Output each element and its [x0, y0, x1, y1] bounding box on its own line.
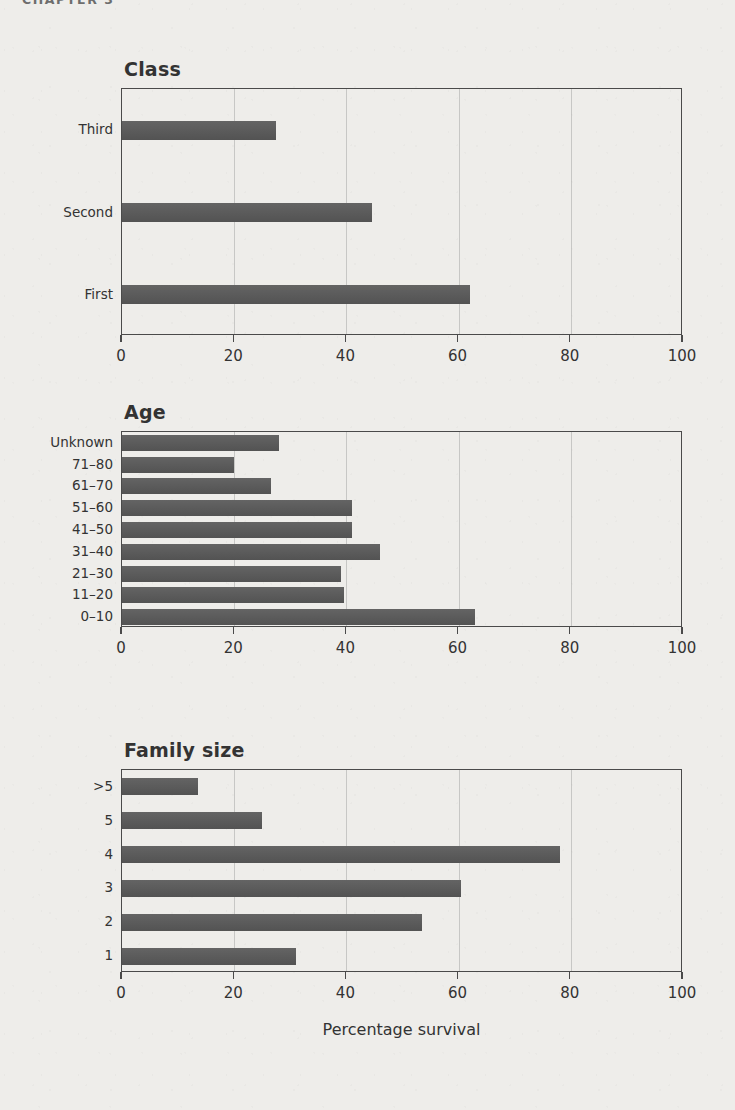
x-axis-tick-label: 0 — [116, 347, 126, 365]
x-axis-tick — [345, 335, 346, 342]
bar — [122, 457, 234, 473]
y-axis-label: Second — [29, 204, 113, 220]
x-axis-tick — [569, 627, 570, 634]
bar — [122, 880, 461, 897]
gridline — [234, 770, 235, 971]
chart-title: Family size — [124, 739, 244, 761]
x-axis-tick — [120, 335, 121, 342]
bar — [122, 522, 352, 538]
x-axis-tick-label: 80 — [560, 984, 579, 1002]
y-axis-label: >5 — [29, 778, 113, 794]
y-axis-label: 11–20 — [29, 586, 113, 602]
x-axis-tick — [233, 627, 234, 634]
bar — [122, 812, 262, 829]
bar — [122, 948, 296, 965]
x-axis-tick-label: 0 — [116, 984, 126, 1002]
bar — [122, 285, 470, 304]
x-axis-tick-label: 80 — [560, 347, 579, 365]
y-axis-label: 4 — [29, 846, 113, 862]
y-axis-label: 5 — [29, 812, 113, 828]
x-axis-tick — [681, 972, 682, 979]
y-axis-label: Third — [29, 121, 113, 137]
x-axis-tick-label: 40 — [336, 347, 355, 365]
x-axis-tick-label: 0 — [116, 639, 126, 657]
x-axis-tick — [569, 972, 570, 979]
gridline — [571, 770, 572, 971]
bar — [122, 478, 271, 494]
bar — [122, 203, 372, 222]
x-axis-tick — [120, 627, 121, 634]
x-axis-tick — [457, 972, 458, 979]
chart-title: Age — [124, 401, 166, 423]
x-axis-tick-label: 60 — [448, 984, 467, 1002]
x-axis-tick — [681, 335, 682, 342]
y-axis-label: 61–70 — [29, 477, 113, 493]
bar — [122, 609, 475, 625]
bar — [122, 846, 560, 863]
bar — [122, 914, 422, 931]
x-axis-tick — [120, 972, 121, 979]
x-axis-tick-label: 100 — [668, 639, 697, 657]
chart-title: Class — [124, 58, 181, 80]
y-axis-label: 3 — [29, 879, 113, 895]
bar — [122, 566, 341, 582]
gridline — [346, 770, 347, 971]
plot-area — [121, 431, 682, 627]
bar — [122, 500, 352, 516]
x-axis-tick — [233, 972, 234, 979]
y-axis-label: 31–40 — [29, 543, 113, 559]
gridline — [459, 432, 460, 626]
x-axis-tick — [681, 627, 682, 634]
bar — [122, 587, 344, 603]
x-axis-tick-label: 20 — [224, 984, 243, 1002]
y-axis-label: 51–60 — [29, 499, 113, 515]
plot-area — [121, 769, 682, 972]
y-axis-label: First — [29, 286, 113, 302]
y-axis-label: Unknown — [29, 434, 113, 450]
gridline — [571, 432, 572, 626]
x-axis-tick — [457, 335, 458, 342]
x-axis-tick-label: 40 — [336, 639, 355, 657]
x-axis-tick-label: 80 — [560, 639, 579, 657]
x-axis-tick — [457, 627, 458, 634]
x-axis-tick-label: 20 — [224, 347, 243, 365]
gridline — [571, 89, 572, 334]
x-axis-tick-label: 60 — [448, 347, 467, 365]
x-axis-tick — [345, 627, 346, 634]
x-axis-tick — [569, 335, 570, 342]
y-axis-label: 41–50 — [29, 521, 113, 537]
y-axis-label: 0–10 — [29, 608, 113, 624]
y-axis-label: 71–80 — [29, 456, 113, 472]
x-axis-title: Percentage survival — [323, 1020, 481, 1039]
x-axis-tick — [345, 972, 346, 979]
plot-area — [121, 88, 682, 335]
x-axis-tick — [233, 335, 234, 342]
x-axis-tick-label: 40 — [336, 984, 355, 1002]
running-head: CHAPTER 3 — [22, 0, 115, 7]
y-axis-label: 1 — [29, 947, 113, 963]
x-axis-tick-label: 100 — [668, 347, 697, 365]
x-axis-tick-label: 20 — [224, 639, 243, 657]
x-axis-tick-label: 100 — [668, 984, 697, 1002]
y-axis-label: 21–30 — [29, 565, 113, 581]
x-axis-tick-label: 60 — [448, 639, 467, 657]
bar — [122, 435, 279, 451]
bar — [122, 778, 198, 795]
gridline — [459, 770, 460, 971]
bar — [122, 544, 380, 560]
bar — [122, 121, 276, 140]
y-axis-label: 2 — [29, 913, 113, 929]
